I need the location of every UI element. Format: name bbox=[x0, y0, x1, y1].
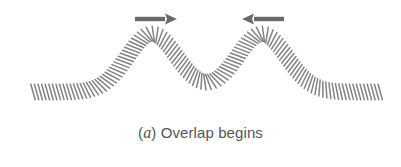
left-arrow-icon bbox=[242, 14, 284, 25]
spring-coil bbox=[103, 74, 117, 82]
spring-coil bbox=[276, 42, 286, 55]
spring-coil bbox=[132, 38, 146, 45]
spring-coil bbox=[301, 72, 308, 86]
spring-coils bbox=[31, 26, 383, 100]
spring-coil bbox=[326, 82, 327, 98]
spring-coil bbox=[156, 27, 158, 43]
spring-coil bbox=[83, 83, 90, 97]
spring-coil bbox=[319, 80, 320, 96]
spring-coil bbox=[164, 38, 173, 51]
direction-arrows bbox=[135, 14, 284, 25]
spring-coil bbox=[335, 84, 338, 100]
spring-coil bbox=[105, 72, 119, 80]
spring-coil bbox=[161, 35, 170, 49]
spring-coil bbox=[315, 79, 318, 95]
caption-text: Overlap begins bbox=[156, 124, 263, 141]
spring-coil bbox=[242, 38, 256, 45]
spring-coil bbox=[339, 84, 343, 100]
spring-coil bbox=[332, 83, 335, 99]
spring-coil bbox=[201, 73, 202, 89]
spring-coil bbox=[298, 69, 306, 83]
spring-coil bbox=[166, 42, 176, 55]
spring-coil bbox=[329, 83, 331, 99]
right-arrow-icon bbox=[135, 14, 177, 25]
spring-coil bbox=[342, 84, 346, 100]
figure-caption: (a) Overlap begins bbox=[0, 124, 401, 142]
wave-pulses-figure: (a) Overlap begins bbox=[0, 0, 401, 167]
spring-coil bbox=[271, 36, 280, 50]
spring-coil bbox=[217, 69, 231, 77]
spring-coil bbox=[274, 39, 283, 52]
spring-coil bbox=[186, 66, 194, 80]
spring-coil bbox=[266, 27, 269, 43]
